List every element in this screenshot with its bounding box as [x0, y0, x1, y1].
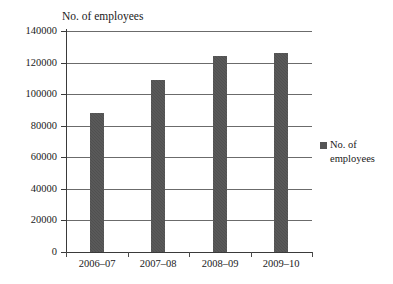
y-axis-tick [61, 63, 67, 64]
y-axis-label: 20000 [31, 215, 57, 225]
y-axis-tick [61, 189, 67, 190]
x-axis-label: 2006–07 [67, 258, 127, 270]
gridline [66, 31, 312, 32]
x-axis-label: 2009–10 [251, 258, 311, 270]
x-axis-tick [251, 252, 252, 257]
y-axis-tick [61, 157, 67, 158]
x-axis-label: 2007–08 [128, 258, 188, 270]
y-axis-label: 60000 [31, 152, 57, 162]
bar-chart-figure: No. of employees 02000040000600008000010… [0, 0, 393, 284]
y-axis-label: 120000 [26, 58, 58, 68]
y-axis-label: 40000 [31, 184, 57, 194]
x-axis-tick [312, 252, 313, 257]
y-axis-label: 0 [52, 247, 57, 257]
legend-item-label: No. ofemployees [330, 138, 375, 166]
y-axis-tick [61, 126, 67, 127]
legend-item-no-of-employees: No. ofemployees [320, 138, 390, 166]
y-axis-label: 100000 [26, 89, 58, 99]
bar [90, 113, 104, 252]
x-axis-label: 2008–09 [190, 258, 250, 270]
x-axis-tick [189, 252, 190, 257]
chart-legend: No. ofemployees [320, 138, 390, 166]
y-axis-tick [61, 31, 67, 32]
x-axis-tick [128, 252, 129, 257]
y-axis-label: 140000 [26, 26, 58, 36]
bar [213, 56, 227, 252]
bar [274, 53, 288, 252]
x-axis-tick [66, 252, 67, 257]
y-axis-tick [61, 94, 67, 95]
bar [151, 80, 165, 252]
chart-title: No. of employees [62, 9, 143, 23]
y-axis-label: 80000 [31, 121, 57, 131]
y-axis-tick [61, 220, 67, 221]
legend-swatch-icon [320, 142, 327, 149]
